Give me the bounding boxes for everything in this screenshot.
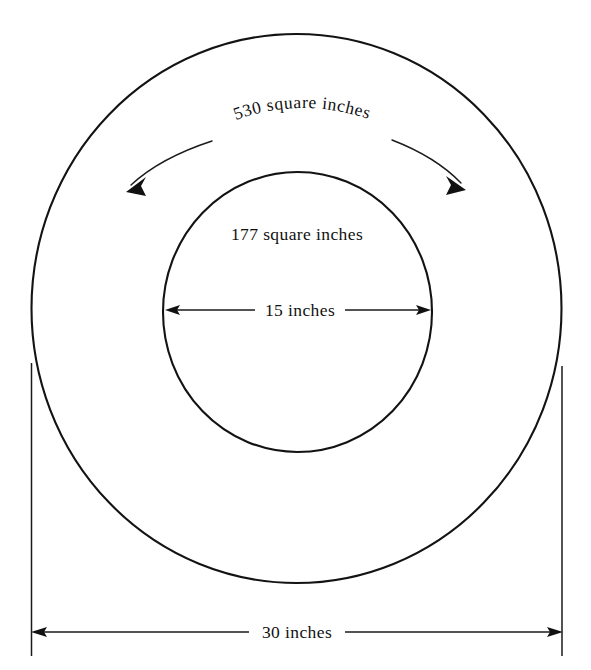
outer-ring-area-label: 530 square inches bbox=[231, 92, 374, 124]
ring-arrow-left-shaft bbox=[131, 141, 212, 185]
annulus-diagram: 530 square inches 177 square inches 15 i… bbox=[0, 0, 591, 670]
ring-arrow-right-shaft bbox=[392, 140, 461, 183]
inner-circle-area-label: 177 square inches bbox=[231, 224, 363, 244]
figure-canvas: 530 square inches 177 square inches 15 i… bbox=[0, 0, 591, 670]
inner-diameter-label: 15 inches bbox=[265, 300, 335, 320]
outer-diameter-label: 30 inches bbox=[262, 622, 332, 642]
